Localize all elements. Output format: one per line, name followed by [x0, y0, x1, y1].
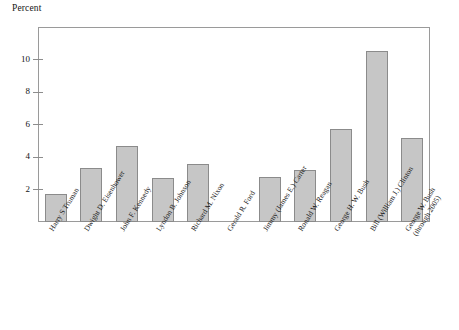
x-axis-label-line: Lyndon B. Johnson: [154, 178, 193, 233]
x-axis-label: Gerald R. Ford: [225, 189, 257, 233]
x-axis-label-line: Ronald W. Reagan: [296, 180, 334, 233]
x-axis-label-line: John F. Kennedy: [118, 185, 153, 233]
x-axis-label: George W. Bush(through 2005): [403, 186, 445, 238]
x-axis-label-line: Richard M. Nixon: [189, 181, 226, 233]
x-axis-label: Lyndon B. Johnson: [154, 178, 193, 233]
bar-chart: Percent 246810 Harry S TrumanDwight D. E…: [0, 0, 459, 330]
x-axis-label-line: Gerald R. Ford: [225, 189, 257, 233]
x-axis-label: Richard M. Nixon: [189, 181, 226, 233]
x-axis-label-line: Harry S Truman: [47, 186, 81, 233]
x-axis-category-labels: Harry S TrumanDwight D. EisenhowerJohn F…: [0, 0, 459, 330]
x-axis-label: John F. Kennedy: [118, 185, 153, 233]
x-axis-label-line: George H. W. Bush: [332, 178, 371, 233]
x-axis-label: Harry S Truman: [47, 186, 81, 233]
x-axis-label: Ronald W. Reagan: [296, 180, 334, 233]
x-axis-label: George H. W. Bush: [332, 178, 371, 233]
